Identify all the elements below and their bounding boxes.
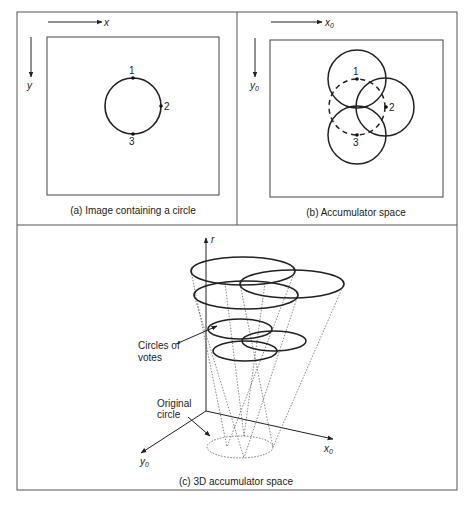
original-circle-ellipse <box>207 436 273 458</box>
original-circle-label: Original <box>157 398 191 409</box>
r-axis-label: r <box>211 234 215 245</box>
x0-axis-label: x0 <box>323 443 333 455</box>
panel-a-caption: (a) Image containing a circle <box>70 205 196 216</box>
panel-b-accumulator-space: x0 y0 1 2 3 (b) Accumulator space <box>249 17 443 218</box>
point-1-dot <box>355 77 359 81</box>
panel-c-3d-accumulator: r x0 y0 <box>138 234 344 487</box>
point-2-dot <box>384 105 388 109</box>
y-axis-label: y <box>26 80 33 91</box>
original-circle-label-line2: circle <box>157 409 181 420</box>
panel-a-image-box <box>47 37 219 195</box>
panel-c-caption: (c) 3D accumulator space <box>179 476 293 487</box>
x-axis-label: x <box>103 17 110 28</box>
point-3-label: 3 <box>129 136 135 147</box>
image-circle <box>105 78 161 134</box>
hough-circle-figure: x y 1 2 3 (a) Image containing a circle … <box>0 0 469 506</box>
point-1-dot <box>131 76 135 80</box>
point-2-label: 2 <box>389 102 395 113</box>
panel-b-caption: (b) Accumulator space <box>306 207 406 218</box>
original-circle-arrow <box>188 417 210 436</box>
y0-axis-label: y0 <box>249 80 259 92</box>
panel-b-accumulator-box <box>270 40 443 197</box>
circles-of-votes-label: Circles of <box>138 340 180 351</box>
x0-axis-arrow <box>206 411 333 439</box>
point-2-label: 2 <box>164 101 170 112</box>
point-1-label: 1 <box>129 65 135 76</box>
point-1-label: 1 <box>353 66 359 77</box>
original-circle-dashed <box>329 79 385 135</box>
cone-lines <box>191 271 344 458</box>
point-2-dot <box>159 104 163 108</box>
circles-of-votes-arrow <box>176 326 217 344</box>
x0-axis-label: x0 <box>324 17 334 29</box>
panel-a-image-space: x y 1 2 3 (a) Image containing a circle <box>26 17 219 216</box>
circles-of-votes-label-line2: votes <box>138 352 162 363</box>
point-3-label: 3 <box>353 137 359 148</box>
upper-vote-circles <box>191 257 344 309</box>
y0-axis-label: y0 <box>139 456 149 468</box>
